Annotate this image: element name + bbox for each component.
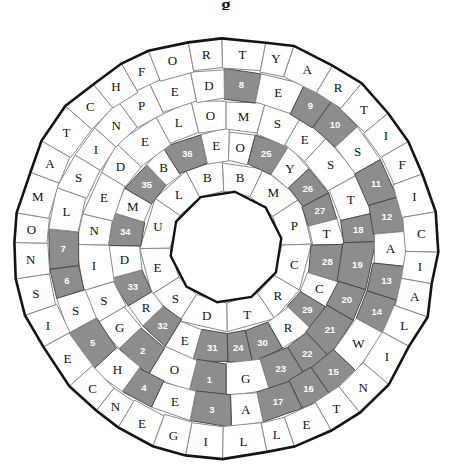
cell-letter: S — [172, 291, 179, 306]
cell-letter: Y — [285, 161, 295, 176]
cell-number-36: 36 — [182, 148, 193, 159]
cell-letter: R — [202, 47, 211, 62]
cell-letter: N — [111, 399, 121, 414]
cell-number-11: 11 — [371, 178, 382, 189]
cell-number-27: 27 — [315, 205, 326, 216]
cell-letter: O — [27, 222, 36, 237]
cell-letter: R — [284, 320, 293, 335]
cell-letter: I — [203, 434, 207, 449]
cell-letter: A — [45, 156, 55, 171]
cell-letter: B — [236, 170, 245, 185]
cell-number-33: 33 — [128, 281, 139, 292]
cell-letter: I — [412, 189, 416, 204]
cell-letter: M — [238, 109, 250, 124]
cell-letter: C — [88, 381, 97, 396]
cell-letter: R — [273, 288, 282, 303]
cell-letter: L — [240, 434, 248, 449]
cell-letter: A — [386, 241, 396, 256]
cell-letter: D — [202, 308, 211, 323]
cell-number-2: 2 — [140, 345, 145, 356]
cell-number-1: 1 — [207, 374, 213, 385]
cell-number-6: 6 — [64, 275, 69, 286]
cell-letter: P — [291, 218, 298, 233]
cell-letter: T — [347, 192, 355, 207]
cell-letter: E — [181, 333, 189, 348]
cell-letter: E — [100, 190, 108, 205]
cell-number-10: 10 — [330, 119, 341, 130]
cell-letter: E — [171, 394, 179, 409]
cell-letter: E — [303, 417, 311, 432]
cell-number-23: 23 — [275, 363, 286, 374]
cell-letter: U — [153, 219, 163, 234]
cell-letter: H — [113, 362, 122, 377]
cell-letter: E — [141, 134, 149, 149]
cell-number-15: 15 — [328, 366, 339, 377]
cell-number-22: 22 — [302, 348, 313, 359]
cell-letter: P — [138, 98, 145, 113]
cell-letter: T — [63, 125, 71, 140]
cell-letter: C — [417, 226, 426, 241]
cell-letter: S — [327, 157, 334, 172]
cell-number-35: 35 — [141, 179, 152, 190]
cell-number-16: 16 — [303, 383, 314, 394]
cell-letter: L — [175, 115, 183, 130]
cell-letter: I — [46, 318, 50, 333]
cell-letter: O — [236, 140, 245, 155]
cell-letter: W — [352, 336, 365, 351]
cell-letter: L — [273, 427, 281, 442]
cell-number-17: 17 — [273, 396, 284, 407]
cell-number-12: 12 — [382, 211, 393, 222]
cell-letter: S — [274, 116, 281, 131]
cell-letter: I — [92, 258, 96, 273]
cell-letter: O — [168, 53, 177, 68]
cell-number-18: 18 — [353, 224, 364, 235]
cell-number-8: 8 — [239, 79, 244, 90]
cell-letter: T — [243, 307, 251, 322]
cell-number-25: 25 — [261, 148, 272, 159]
puzzle-stage: g BMPCRTDSEULBO25Y2627T28C29R302431E32R3… — [0, 0, 452, 472]
cell-letter: G — [241, 371, 250, 386]
cell-letter: T — [322, 226, 330, 241]
cell-letter: F — [138, 64, 145, 79]
cell-letter: S — [32, 286, 39, 301]
cell-letter: F — [398, 157, 405, 172]
cell-number-26: 26 — [302, 183, 313, 194]
cell-number-14: 14 — [371, 306, 382, 317]
cell-number-34: 34 — [120, 226, 131, 237]
cell-letter: N — [112, 118, 122, 133]
cell-letter: D — [204, 78, 213, 93]
cell-letter: G — [115, 320, 124, 335]
word-wheel-svg[interactable]: BMPCRTDSEULBO25Y2627T28C29R302431E32R33D… — [0, 0, 452, 472]
cell-letter: A — [302, 62, 312, 77]
cell-number-9: 9 — [308, 100, 313, 111]
cell-letter: N — [90, 223, 100, 238]
cell-letter: I — [94, 142, 98, 157]
cell-letter: A — [410, 289, 420, 304]
cell-letter: I — [385, 349, 389, 364]
cell-letter: E — [301, 132, 309, 147]
cell-letter: S — [75, 170, 82, 185]
cell-letter: A — [241, 402, 251, 417]
cell-letter: G — [169, 428, 178, 443]
cell-letter: E — [138, 416, 146, 431]
cell-letter: T — [333, 401, 341, 416]
cell-number-4: 4 — [141, 382, 147, 393]
cell-letter: E — [63, 351, 71, 366]
cell-number-24: 24 — [233, 342, 244, 353]
cell-letter: E — [154, 260, 162, 275]
cell-letter: C — [86, 99, 95, 114]
cell-letter: I — [418, 259, 422, 274]
cell-number-29: 29 — [302, 304, 313, 315]
cell-number-13: 13 — [381, 275, 392, 286]
cell-letter: E — [274, 85, 282, 100]
cell-number-19: 19 — [352, 259, 363, 270]
cell-letter: L — [63, 204, 71, 219]
cell-letter: T — [360, 102, 368, 117]
cell-number-7: 7 — [60, 243, 65, 254]
cell-letter: B — [159, 160, 168, 175]
cell-number-3: 3 — [209, 404, 214, 415]
cell-letter: D — [116, 159, 125, 174]
cell-letter: L — [175, 187, 183, 202]
cell-letter: R — [142, 300, 151, 315]
cell-number-28: 28 — [322, 256, 333, 267]
